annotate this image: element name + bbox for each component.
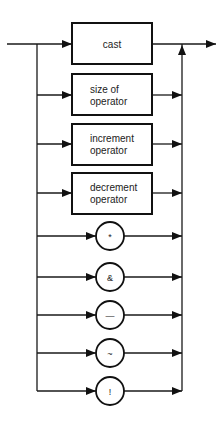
entry-arrow-icon	[62, 40, 72, 48]
branch-out-arrow-icon	[172, 91, 182, 99]
branch-in-arrow-icon	[86, 273, 96, 281]
box-increment: incrementoperator	[72, 124, 152, 165]
merge-arrow-icon	[178, 45, 186, 55]
branch-in-arrow-icon	[86, 387, 96, 395]
terminal-symbol: —	[106, 311, 115, 321]
terminal-symbol: !	[109, 387, 112, 397]
branch-in-arrow-icon	[86, 311, 96, 319]
branch-in-arrow-icon	[62, 91, 72, 99]
box-label: operator	[90, 96, 128, 107]
terminal-symbol: ~	[107, 349, 112, 359]
branch-out-arrow-icon	[172, 232, 182, 240]
terminal-star: *	[96, 222, 124, 250]
exit-arrow-icon	[206, 40, 216, 48]
box-label: operator	[90, 145, 128, 156]
box-frame	[72, 74, 152, 115]
box-cast: cast	[72, 23, 152, 64]
box-decrement: decrementoperator	[72, 173, 152, 214]
box-label: operator	[90, 194, 128, 205]
syntax-diagram: castsize ofoperatorincrementoperatordecr…	[0, 0, 220, 428]
terminal-symbol: &	[107, 273, 113, 283]
branch-out-arrow-icon	[172, 189, 182, 197]
terminal-not: !	[96, 377, 124, 405]
branch-in-arrow-icon	[86, 232, 96, 240]
branch-in-arrow-icon	[86, 349, 96, 357]
terminal-tilde: ~	[96, 339, 124, 367]
branch-out-arrow-icon	[172, 311, 182, 319]
branch-in-arrow-icon	[62, 140, 72, 148]
branch-out-arrow-icon	[172, 273, 182, 281]
box-label: cast	[103, 39, 122, 50]
branch-out-arrow-icon	[172, 387, 182, 395]
terminal-ampersand: &	[96, 263, 124, 291]
box-label: decrement	[90, 182, 137, 193]
nodes: castsize ofoperatorincrementoperatordecr…	[72, 23, 152, 405]
box-label: increment	[90, 133, 134, 144]
branch-in-arrow-icon	[62, 189, 72, 197]
branch-out-arrow-icon	[172, 140, 182, 148]
branch-out-arrow-icon	[172, 349, 182, 357]
box-label: size of	[90, 84, 119, 95]
terminal-minus: —	[96, 301, 124, 329]
terminal-symbol: *	[108, 232, 112, 242]
box-sizeof: size ofoperator	[72, 74, 152, 115]
